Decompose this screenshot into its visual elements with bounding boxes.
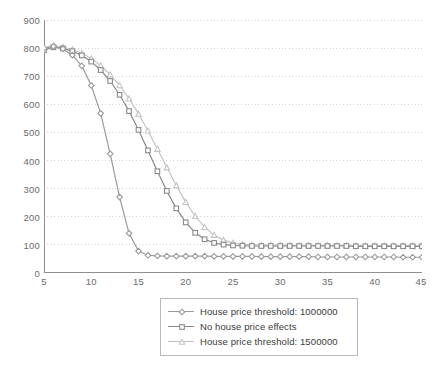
x-tick-label: 45 xyxy=(416,276,427,287)
data-point-marker xyxy=(193,231,198,236)
data-point-marker xyxy=(382,244,387,249)
data-point-marker xyxy=(372,244,377,249)
legend-item[interactable]: House price threshold: 1500000 xyxy=(168,334,350,349)
data-point-marker xyxy=(126,231,132,237)
x-tick-label: 15 xyxy=(133,276,144,287)
data-point-marker xyxy=(277,254,283,260)
data-series xyxy=(44,43,422,248)
data-point-marker xyxy=(98,111,104,117)
legend-item[interactable]: No house price effects xyxy=(168,319,350,334)
data-point-marker xyxy=(127,109,132,114)
data-point-marker xyxy=(108,79,113,84)
y-tick-label: 800 xyxy=(2,43,40,54)
x-tick-label: 10 xyxy=(86,276,97,287)
data-point-marker xyxy=(183,253,189,259)
data-point-marker xyxy=(107,151,113,157)
data-point-marker xyxy=(344,254,350,260)
data-point-marker xyxy=(164,253,170,259)
data-point-marker xyxy=(174,206,179,211)
data-point-marker xyxy=(391,254,397,260)
data-point-marker xyxy=(269,244,274,249)
legend-item-label: House price threshold: 1500000 xyxy=(200,336,338,347)
data-point-marker xyxy=(354,244,359,249)
data-point-marker xyxy=(240,243,245,248)
data-point-marker xyxy=(419,254,422,260)
data-point-marker xyxy=(278,244,283,249)
y-tick-label: 100 xyxy=(2,239,40,250)
y-tick-label: 200 xyxy=(2,211,40,222)
plot-svg xyxy=(44,20,422,273)
data-point-marker xyxy=(202,253,208,259)
x-tick-label: 20 xyxy=(180,276,191,287)
data-series xyxy=(44,44,422,260)
data-point-marker xyxy=(363,254,369,260)
x-tick-label: 40 xyxy=(369,276,380,287)
legend-marker-square-icon xyxy=(168,321,194,332)
legend-key-marker xyxy=(178,338,186,346)
series-line xyxy=(44,45,422,245)
plot-area xyxy=(44,20,422,273)
data-point-marker xyxy=(145,252,151,258)
data-point-marker xyxy=(372,254,378,260)
y-tick-label: 0 xyxy=(2,268,40,279)
chart-figure: 9008007006005004003002001000 51015202530… xyxy=(0,0,436,370)
legend-marker-triangle-icon xyxy=(168,336,194,347)
data-point-marker xyxy=(98,68,103,73)
data-point-marker xyxy=(410,244,415,249)
y-axis: 9008007006005004003002001000 xyxy=(0,20,40,273)
data-point-marker xyxy=(325,254,331,260)
data-point-marker xyxy=(306,244,311,249)
data-point-marker xyxy=(334,254,340,260)
data-point-marker xyxy=(335,244,340,249)
data-point-marker xyxy=(145,128,150,133)
data-point-marker xyxy=(325,244,330,249)
legend-item-label: House price threshold: 1000000 xyxy=(200,306,338,317)
data-point-marker xyxy=(316,244,321,249)
data-point-marker xyxy=(268,254,274,260)
data-point-marker xyxy=(231,243,236,248)
data-point-marker xyxy=(155,169,160,174)
data-point-marker xyxy=(400,254,406,260)
y-tick-label: 700 xyxy=(2,71,40,82)
legend-item-label: No house price effects xyxy=(200,321,297,332)
legend-marker-diamond-icon xyxy=(168,306,194,317)
data-point-marker xyxy=(410,254,416,260)
data-point-marker xyxy=(89,59,94,64)
data-point-marker xyxy=(344,244,349,249)
data-point-marker xyxy=(221,237,226,242)
data-point-marker xyxy=(353,254,359,260)
data-point-marker xyxy=(315,254,321,260)
data-point-marker xyxy=(155,253,161,259)
data-point-marker xyxy=(165,189,170,194)
data-point-marker xyxy=(420,244,422,249)
data-point-marker xyxy=(164,165,169,170)
legend-item[interactable]: House price threshold: 1000000 xyxy=(168,304,350,319)
data-point-marker xyxy=(183,199,188,204)
data-point-marker xyxy=(174,253,180,259)
chart-legend: House price threshold: 1000000 No house … xyxy=(160,298,358,356)
data-point-marker xyxy=(230,254,236,260)
data-point-marker xyxy=(136,128,141,133)
data-point-marker xyxy=(221,242,226,247)
data-point-marker xyxy=(211,254,217,260)
data-point-marker xyxy=(296,254,302,260)
data-point-marker xyxy=(202,237,207,242)
data-point-marker xyxy=(249,254,255,260)
data-point-marker xyxy=(80,53,85,58)
data-point-marker xyxy=(259,244,264,249)
y-tick-label: 900 xyxy=(2,15,40,26)
x-tick-label: 25 xyxy=(228,276,239,287)
data-series xyxy=(44,45,422,249)
data-point-marker xyxy=(117,194,123,200)
y-tick-label: 300 xyxy=(2,183,40,194)
data-point-marker xyxy=(155,146,160,151)
y-tick-label: 600 xyxy=(2,99,40,110)
data-point-marker xyxy=(363,244,368,249)
series-line xyxy=(44,46,422,257)
axis-lines xyxy=(45,20,423,273)
data-point-marker xyxy=(183,220,188,225)
data-point-marker xyxy=(306,254,312,260)
x-axis: 51015202530354045 xyxy=(44,276,422,292)
data-point-marker xyxy=(381,254,387,260)
data-point-marker xyxy=(88,83,94,89)
